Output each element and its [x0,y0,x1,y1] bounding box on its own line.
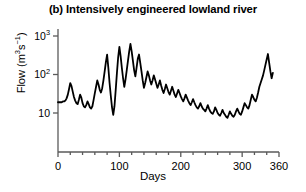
x-tick-label: 360 [270,160,288,172]
x-tick-label: 200 [172,160,190,172]
y-tick-label: 10 [38,107,50,119]
y-tick-label: 103 [34,28,50,41]
x-tick-label: 100 [110,160,128,172]
y-axis-ticks: 10102103 [34,28,58,118]
chart-figure: (b) Intensively engineered lowland river… [0,0,306,192]
x-tick-label: 0 [55,160,61,172]
flow-data-line [58,44,273,118]
x-axis-ticks: 0100200300360 [55,152,288,172]
x-tick-label: 300 [233,160,251,172]
y-tick-label: 102 [34,67,50,80]
plot-area: 10102103 0100200300360 [0,0,306,192]
